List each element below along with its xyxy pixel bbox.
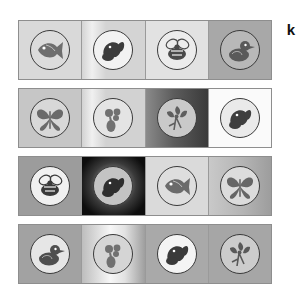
grid-tile-4-2[interactable] (82, 225, 145, 283)
grid-tile-2-1[interactable] (19, 89, 82, 147)
fish-icon (160, 169, 194, 203)
squirrel-icon (96, 169, 130, 203)
circular-stamp (93, 166, 133, 206)
circular-stamp (157, 166, 197, 206)
grid-tile-3-3[interactable] (146, 157, 209, 215)
circular-stamp (220, 234, 260, 274)
image-grid-row (18, 20, 272, 80)
bee-icon (33, 169, 67, 203)
fish-icon (33, 33, 67, 67)
circular-stamp (30, 234, 70, 274)
bee-icon (160, 33, 194, 67)
grid-tile-2-4[interactable] (209, 89, 271, 147)
grid-tile-1-1[interactable] (19, 21, 82, 79)
grid-tile-2-3[interactable] (146, 89, 209, 147)
circular-stamp (30, 166, 70, 206)
squirrel-icon (160, 237, 194, 271)
grid-tile-3-2[interactable] (82, 157, 145, 215)
image-grid-row (18, 156, 272, 216)
figure-panel: k (0, 0, 301, 297)
butterfly-icon (33, 101, 67, 135)
circular-stamp (157, 234, 197, 274)
image-grid-row (18, 88, 272, 148)
circular-stamp (30, 98, 70, 138)
grid-tile-4-1[interactable] (19, 225, 82, 283)
grid-tile-3-1[interactable] (19, 157, 82, 215)
duck-icon (33, 237, 67, 271)
squirrel-icon (96, 33, 130, 67)
image-grid-row (18, 224, 272, 284)
squirrel-icon (223, 101, 257, 135)
circular-stamp (220, 166, 260, 206)
rattle-icon (96, 237, 130, 271)
grid-tile-2-2[interactable] (82, 89, 145, 147)
grid-tile-4-3[interactable] (146, 225, 209, 283)
circular-stamp (93, 234, 133, 274)
circular-stamp (93, 30, 133, 70)
circular-stamp (30, 30, 70, 70)
circular-stamp (157, 98, 197, 138)
grid-tile-3-4[interactable] (209, 157, 271, 215)
grid-tile-1-3[interactable] (146, 21, 209, 79)
image-grid (18, 20, 272, 284)
duck-icon (223, 33, 257, 67)
circular-stamp (93, 98, 133, 138)
grid-tile-1-2[interactable] (82, 21, 145, 79)
butterfly-icon (223, 169, 257, 203)
grid-tile-4-4[interactable] (209, 225, 271, 283)
flower-icon (223, 237, 257, 271)
grid-tile-1-4[interactable] (209, 21, 271, 79)
circular-stamp (220, 98, 260, 138)
panel-letter-label: k (287, 22, 295, 37)
circular-stamp (157, 30, 197, 70)
rattle-icon (96, 101, 130, 135)
flower-icon (160, 101, 194, 135)
circular-stamp (220, 30, 260, 70)
